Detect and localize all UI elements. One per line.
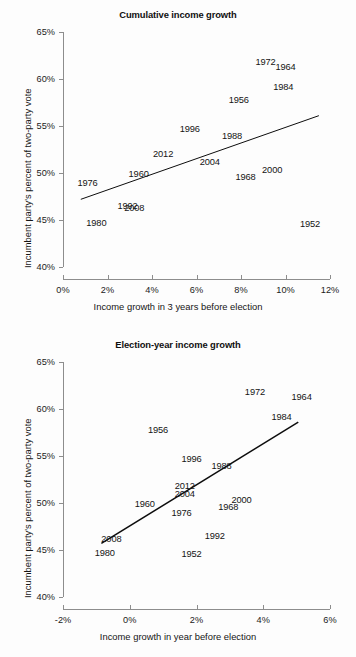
y-axis-tick-label: 65% [21, 27, 55, 37]
y-axis-tick [59, 220, 63, 221]
data-point-label: 1960 [129, 169, 149, 179]
data-point-label: 1992 [205, 531, 225, 541]
x-axis-tick-label: 8% [234, 285, 247, 295]
data-point-label: 1968 [235, 172, 255, 182]
x-axis-tick-label: 4% [145, 285, 158, 295]
y-axis-tick [59, 456, 63, 457]
y-axis-tick [59, 267, 63, 268]
y-axis-title: Incumbent party's percent of two-party v… [22, 419, 33, 598]
x-axis-tick-label: -2% [55, 615, 71, 625]
x-axis-tick [286, 275, 287, 279]
data-point-label: 1952 [300, 219, 320, 229]
data-point-label: 1976 [77, 178, 97, 188]
y-axis-tick-label: 60% [21, 74, 55, 84]
x-axis-tick [130, 605, 131, 609]
x-axis-tick [330, 605, 331, 609]
x-axis-tick-label: 6% [190, 285, 203, 295]
x-axis-tick [63, 275, 64, 279]
data-point-label: 1984 [273, 82, 293, 92]
x-axis-line [63, 609, 330, 610]
data-point-label: 1960 [135, 499, 155, 509]
data-point-label: 1956 [148, 425, 168, 435]
x-axis-tick [241, 275, 242, 279]
data-point-label: 1952 [181, 549, 201, 559]
x-axis-tick-label: 6% [323, 615, 336, 625]
data-point-label: 1964 [292, 392, 312, 402]
x-axis-tick-label: 2% [190, 615, 203, 625]
y-axis-tick [59, 503, 63, 504]
data-point-label: 1980 [86, 218, 106, 228]
x-axis-tick [263, 605, 264, 609]
regression-fit-line [0, 0, 356, 330]
y-axis-line [63, 362, 64, 597]
data-point-label: 2008 [101, 534, 121, 544]
x-axis-tick [63, 605, 64, 609]
y-axis-tick [59, 550, 63, 551]
data-point-label: 1972 [245, 387, 265, 397]
x-axis-tick [330, 275, 331, 279]
x-axis-line [63, 279, 330, 280]
data-point-label: 1996 [181, 454, 201, 464]
chart-cumulative-income-growth: Cumulative income growth40%45%50%55%60%6… [0, 0, 356, 330]
x-axis-tick [152, 275, 153, 279]
data-point-label: 1980 [95, 548, 115, 558]
x-axis-tick-label: 2% [101, 285, 114, 295]
y-axis-tick [59, 126, 63, 127]
data-point-label: 1996 [180, 124, 200, 134]
data-point-label: 1972 [255, 57, 275, 67]
data-point-label: 1988 [211, 461, 231, 471]
chart-title: Election-year income growth [0, 339, 356, 350]
y-axis-title: Incumbent party's percent of two-party v… [22, 89, 33, 268]
data-point-label: 1988 [222, 131, 242, 141]
data-point-label: 2000 [232, 495, 252, 505]
data-point-label: 2012 [153, 149, 173, 159]
data-point-label: 1964 [275, 62, 295, 72]
chart-title: Cumulative income growth [0, 9, 356, 20]
data-point-label: 1956 [229, 95, 249, 105]
data-point-label: 2012 [175, 481, 195, 491]
x-axis-tick-label: 0% [56, 285, 69, 295]
y-axis-tick [59, 362, 63, 363]
data-point-label: 2004 [200, 157, 220, 167]
data-point-label: 1976 [171, 508, 191, 518]
data-point-label: 1984 [272, 412, 292, 422]
x-axis-tick-label: 12% [321, 285, 339, 295]
y-axis-tick [59, 409, 63, 410]
x-axis-tick [197, 275, 198, 279]
y-axis-tick [59, 597, 63, 598]
y-axis-tick [59, 79, 63, 80]
x-axis-tick [197, 605, 198, 609]
chart-election-year-income-growth: Election-year income growth40%45%50%55%6… [0, 330, 356, 657]
x-axis-tick [108, 275, 109, 279]
data-point-label: 2000 [262, 165, 282, 175]
x-axis-tick-label: 0% [123, 615, 136, 625]
x-axis-tick-label: 4% [257, 615, 270, 625]
x-axis-tick-label: 10% [276, 285, 294, 295]
y-axis-tick-label: 65% [21, 357, 55, 367]
y-axis-tick [59, 173, 63, 174]
y-axis-tick-label: 60% [21, 404, 55, 414]
y-axis-tick [59, 32, 63, 33]
y-axis-line [63, 32, 64, 267]
data-point-label: 2008 [124, 203, 144, 213]
x-axis-title: Income growth in year before election [0, 631, 356, 642]
x-axis-title: Income growth in 3 years before election [0, 301, 356, 312]
